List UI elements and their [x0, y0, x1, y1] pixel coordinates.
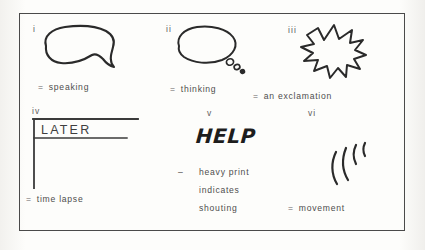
equals-sign-iv: =: [26, 194, 32, 204]
caption-text-movement: movement: [299, 203, 345, 213]
item-numeral-iv: iv: [32, 106, 40, 116]
equals-sign-i: =: [38, 82, 44, 92]
caption-movement: =movement: [288, 203, 345, 213]
caption-text-time-lapse: time lapse: [37, 194, 84, 204]
caption-time-lapse: =time lapse: [26, 194, 83, 204]
caption-text-heavy-print-line3: shouting: [199, 203, 238, 213]
later-lettering: LATER: [41, 123, 91, 137]
caption-exclamation: =an exclamation: [253, 91, 332, 101]
caption-text-heavy-print-line1: heavy print: [199, 167, 249, 177]
scanned-page: i ii iii iv v vi LATER HELP =speaking =t…: [0, 0, 425, 250]
item-numeral-vi: vi: [308, 108, 316, 118]
caption-speaking: =speaking: [38, 82, 89, 92]
caption-thinking: =thinking: [170, 84, 216, 94]
item-numeral-iii: iii: [288, 25, 297, 35]
equals-sign-iii: =: [253, 91, 259, 101]
item-numeral-ii: ii: [166, 24, 172, 34]
caption-text-thinking: thinking: [181, 84, 217, 94]
caption-text-speaking: speaking: [49, 82, 89, 92]
equals-sign-ii: =: [170, 84, 176, 94]
item-numeral-i: i: [33, 24, 36, 34]
equals-sign-vi: =: [288, 203, 294, 213]
caption-text-exclamation: an exclamation: [264, 91, 332, 101]
dash-sign-v: –: [178, 167, 184, 177]
item-numeral-v: v: [207, 108, 212, 118]
caption-text-heavy-print-line2: indicates: [199, 185, 240, 195]
help-lettering: HELP: [195, 124, 256, 148]
